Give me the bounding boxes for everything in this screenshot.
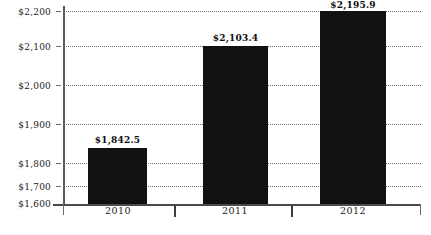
x-axis-tick-start bbox=[63, 204, 64, 215]
ytick-dash-2100 bbox=[56, 46, 61, 47]
ytick-label-2200: $2,200 bbox=[0, 8, 51, 17]
bar-value-2012: $2,195.9 bbox=[318, 1, 388, 10]
bar-2010[interactable] bbox=[88, 148, 147, 204]
ytick-label-1700: $1,700 bbox=[0, 183, 51, 192]
category-label-2012: 2012 bbox=[318, 206, 388, 216]
bar-chart: $2,200 $2,100 $2,000 $1,900 $1,800 $1,70… bbox=[0, 0, 431, 235]
x-axis-tick-end bbox=[420, 204, 421, 215]
ytick-dash-1800 bbox=[56, 163, 61, 164]
category-label-2011: 2011 bbox=[200, 206, 270, 216]
ytick-label-2100: $2,100 bbox=[0, 43, 51, 52]
y-axis-line bbox=[63, 6, 65, 204]
ytick-label-2000: $2,000 bbox=[0, 82, 51, 91]
category-label-2010: 2010 bbox=[83, 206, 153, 216]
bar-value-2011: $2,103.4 bbox=[201, 34, 270, 43]
ytick-dash-2000 bbox=[56, 85, 61, 86]
ytick-label-1800: $1,800 bbox=[0, 160, 51, 169]
bar-value-2010: $1,842.5 bbox=[83, 136, 152, 145]
ytick-label-1600: $1,600 bbox=[0, 200, 51, 209]
category-separator-2 bbox=[291, 205, 293, 217]
bar-2012[interactable] bbox=[320, 11, 386, 204]
ytick-label-1900: $1,900 bbox=[0, 121, 51, 130]
ytick-dash-1700 bbox=[56, 186, 61, 187]
category-separator-1 bbox=[174, 205, 176, 217]
bar-2011[interactable] bbox=[203, 46, 268, 204]
plot-area: $2,200 $2,100 $2,000 $1,900 $1,800 $1,70… bbox=[0, 0, 431, 235]
ytick-dash-2200 bbox=[56, 11, 61, 12]
ytick-dash-1900 bbox=[56, 124, 61, 125]
